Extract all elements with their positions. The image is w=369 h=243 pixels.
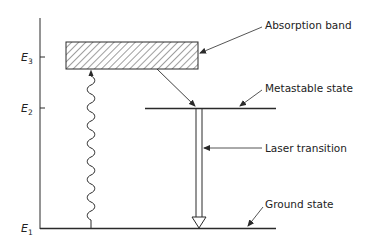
label-e2: E2: [21, 102, 33, 117]
absorption-band: [66, 42, 198, 69]
leader-ground-state: [248, 207, 263, 226]
label-e1: E1: [21, 222, 33, 237]
label-ground-state: Ground state: [265, 198, 334, 210]
label-metastable-state: Metastable state: [265, 82, 353, 94]
leader-absorption-band: [200, 27, 262, 53]
pump-wavy-arrow: [87, 70, 95, 229]
laser-transition-arrow: [192, 109, 206, 228]
leader-metastable-state: [240, 90, 262, 106]
decay-arrow: [157, 69, 195, 106]
label-laser-transition: Laser transition: [265, 142, 347, 154]
energy-level-diagram: E3 E2 E1 Absorption band Metastable stat…: [0, 0, 369, 243]
label-e3: E3: [21, 51, 33, 66]
label-absorption-band: Absorption band: [265, 19, 352, 31]
